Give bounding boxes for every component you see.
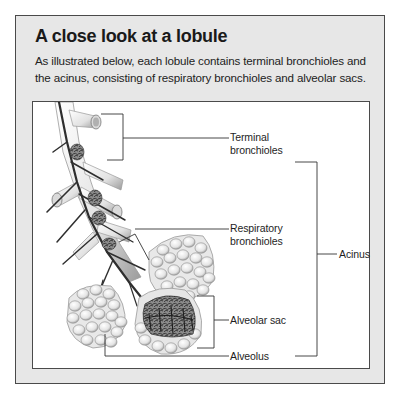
alveolar-cluster-right-icon (135, 288, 202, 354)
label-line-2: bronchioles (230, 144, 283, 157)
label-line-2: bronchioles (230, 235, 283, 248)
label-terminal-bronchioles: Terminal bronchioles (230, 131, 283, 156)
label-respiratory-bronchioles: Respiratory bronchioles (230, 222, 283, 247)
label-line-1: Terminal (230, 131, 283, 144)
panel-title: A close look at a lobule (35, 26, 227, 47)
lobule-illustration: Terminal bronchioles Respiratory bronchi… (32, 101, 370, 369)
label-acinus: Acinus (339, 248, 370, 261)
label-alveolar-sac: Alveolar sac (230, 314, 286, 327)
alveolar-cluster-left-icon (67, 285, 127, 348)
panel-description: As illustrated below, each lobule contai… (35, 52, 375, 86)
label-alveolus: Alveolus (230, 350, 269, 363)
lobule-drawing (33, 102, 369, 368)
sidebar-panel: A close look at a lobule As illustrated … (15, 15, 385, 384)
label-line-1: Respiratory (230, 222, 283, 235)
